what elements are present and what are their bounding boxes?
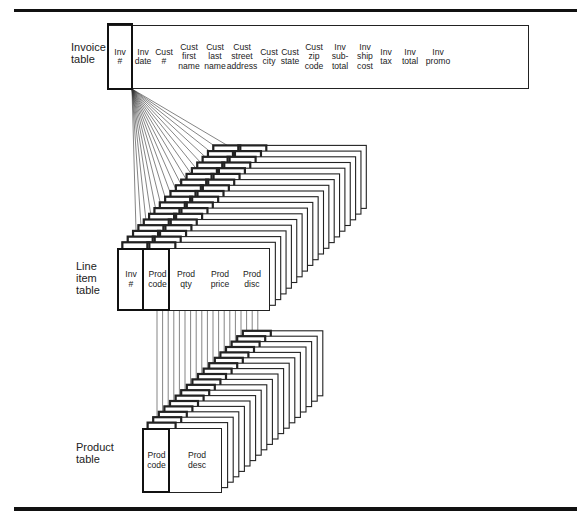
column-header: Inv total [396, 26, 424, 88]
column-header: Cust first name [175, 26, 203, 88]
column-header: Prod desc [171, 429, 223, 492]
product-key-box [142, 428, 170, 493]
invoice-table: Inv #Inv dateCust #Cust first nameCust l… [107, 25, 529, 89]
column-header: Prod qty [170, 249, 202, 310]
line-item-inv-key-box [117, 248, 144, 311]
column-header: Inv sub- total [326, 26, 354, 88]
column-header: Prod price [204, 249, 236, 310]
line-item-prod-key-box [142, 248, 170, 311]
column-header: Inv promo [424, 26, 452, 88]
column-header: Prod disc [236, 249, 268, 310]
column-header: Cust street address [228, 26, 256, 88]
column-header: Cust last name [201, 26, 229, 88]
invoice-key-box [107, 23, 133, 90]
column-header: Cust # [150, 26, 178, 88]
column-header: Cust zip code [300, 26, 328, 88]
